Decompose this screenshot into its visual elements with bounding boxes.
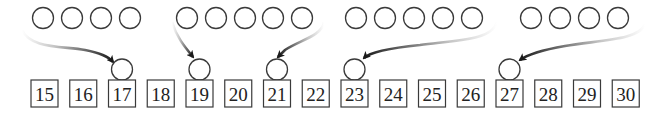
counter-circles	[33, 8, 629, 29]
counter-circle	[292, 8, 313, 29]
counter-circle	[62, 8, 83, 29]
counter-circle	[120, 8, 141, 29]
number-label: 16	[74, 84, 93, 105]
arrow-to-17	[22, 30, 113, 62]
number-label: 22	[306, 84, 325, 105]
counter-circle	[177, 8, 198, 29]
number-line-diagram: 15161718192021222324252627282930	[0, 0, 663, 120]
counter-circle	[235, 8, 256, 29]
counter-circle	[375, 8, 396, 29]
number-box-30: 30	[612, 80, 639, 107]
marker-circle-21	[267, 59, 288, 80]
number-box-25: 25	[419, 80, 446, 107]
counter-circle	[404, 8, 425, 29]
number-box-24: 24	[380, 80, 407, 107]
number-line: 15161718192021222324252627282930	[31, 80, 639, 107]
number-box-26: 26	[457, 80, 484, 107]
number-box-15: 15	[31, 80, 58, 107]
counter-circle	[91, 8, 112, 29]
arrow-to-27	[520, 24, 645, 60]
marker-circle-19	[189, 59, 210, 80]
counter-circle	[206, 8, 227, 29]
number-label: 20	[229, 84, 248, 105]
number-box-19: 19	[186, 80, 213, 107]
counter-circle	[521, 8, 542, 29]
counter-circle	[263, 8, 284, 29]
counter-circle	[462, 8, 483, 29]
number-label: 27	[500, 84, 519, 105]
marker-circles	[112, 59, 521, 80]
number-box-22: 22	[302, 80, 329, 107]
marker-circle-27	[499, 59, 520, 80]
grouping-arrows	[22, 22, 645, 62]
number-label: 30	[616, 84, 635, 105]
counter-circle	[608, 8, 629, 29]
number-label: 21	[268, 84, 287, 105]
number-label: 29	[578, 84, 597, 105]
number-box-16: 16	[70, 80, 97, 107]
number-label: 19	[190, 84, 209, 105]
number-label: 23	[345, 84, 364, 105]
counter-circle	[346, 8, 367, 29]
number-label: 24	[384, 84, 404, 105]
number-label: 15	[35, 84, 54, 105]
counter-circle	[33, 8, 54, 29]
number-box-23: 23	[341, 80, 368, 107]
number-box-17: 17	[109, 80, 136, 107]
number-label: 26	[461, 84, 480, 105]
number-label: 17	[113, 84, 132, 105]
number-box-18: 18	[147, 80, 174, 107]
marker-circle-17	[112, 59, 133, 80]
counter-circle	[579, 8, 600, 29]
number-label: 25	[423, 84, 442, 105]
number-label: 18	[151, 84, 170, 105]
number-box-27: 27	[496, 80, 523, 107]
counter-circle	[433, 8, 454, 29]
number-box-29: 29	[574, 80, 601, 107]
number-box-28: 28	[535, 80, 562, 107]
number-box-21: 21	[264, 80, 291, 107]
marker-circle-23	[344, 59, 365, 80]
counter-circle	[550, 8, 571, 29]
number-box-20: 20	[225, 80, 252, 107]
number-label: 28	[539, 84, 558, 105]
